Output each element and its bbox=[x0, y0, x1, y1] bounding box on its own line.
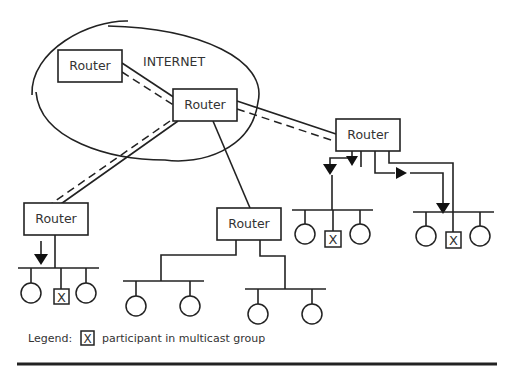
subnet-link bbox=[260, 240, 285, 289]
svg-text:Router: Router bbox=[35, 211, 77, 226]
multicast-arrow-path bbox=[375, 151, 395, 173]
svg-text:Router: Router bbox=[184, 97, 226, 112]
arrow-down-icon bbox=[34, 254, 48, 265]
arrow-down-icon bbox=[323, 164, 337, 175]
arrow-right-icon bbox=[396, 167, 407, 179]
link-multicast bbox=[122, 72, 175, 106]
router-center: Router bbox=[173, 89, 237, 121]
multicast-diagram: Router INTERNET Router Router Router Rou… bbox=[0, 0, 517, 367]
legend-text: participant in multicast group bbox=[102, 332, 265, 345]
host bbox=[470, 226, 490, 246]
svg-text:X: X bbox=[329, 232, 338, 247]
multicast-arrow-path bbox=[330, 158, 350, 164]
router-top-left: Router bbox=[58, 50, 122, 82]
router-bottom-mid: Router bbox=[217, 208, 281, 240]
host bbox=[21, 283, 41, 303]
router-left: Router bbox=[24, 203, 88, 235]
host bbox=[126, 296, 146, 316]
legend-label: Legend: bbox=[28, 332, 72, 345]
router-right: Router bbox=[336, 119, 400, 151]
svg-text:X: X bbox=[57, 290, 66, 305]
internet-label: INTERNET bbox=[143, 54, 206, 69]
svg-text:X: X bbox=[449, 233, 458, 248]
svg-text:Router: Router bbox=[347, 127, 389, 142]
link-solid bbox=[237, 101, 336, 134]
host bbox=[295, 224, 315, 244]
host bbox=[248, 304, 268, 324]
host bbox=[76, 283, 96, 303]
host bbox=[416, 226, 436, 246]
link-solid bbox=[58, 121, 178, 206]
multicast-arrow-path bbox=[410, 173, 443, 205]
link-multicast bbox=[48, 121, 170, 206]
svg-text:Router: Router bbox=[69, 58, 111, 73]
host bbox=[350, 224, 370, 244]
svg-text:Router: Router bbox=[228, 216, 270, 231]
subnet-link bbox=[161, 240, 236, 281]
host bbox=[302, 304, 322, 324]
arrow-down-icon bbox=[346, 156, 358, 166]
svg-text:X: X bbox=[83, 332, 91, 346]
host bbox=[180, 296, 200, 316]
